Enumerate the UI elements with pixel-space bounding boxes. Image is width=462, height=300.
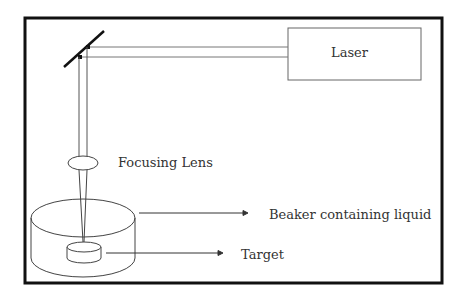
focusing-lens xyxy=(68,156,98,170)
mirror xyxy=(64,31,104,67)
laser-label: Laser xyxy=(331,45,368,60)
converging-beam xyxy=(79,170,87,242)
horizontal-beam xyxy=(81,47,288,57)
beaker-label: Beaker containing liquid xyxy=(269,207,431,222)
beaker-pointer-arrow xyxy=(139,211,248,216)
diagram-canvas xyxy=(0,0,462,300)
target xyxy=(67,242,101,263)
focusing-lens-label: Focusing Lens xyxy=(118,155,213,170)
target-pointer-arrow xyxy=(106,251,223,256)
target-label: Target xyxy=(241,247,284,262)
vertical-beam xyxy=(79,47,87,157)
